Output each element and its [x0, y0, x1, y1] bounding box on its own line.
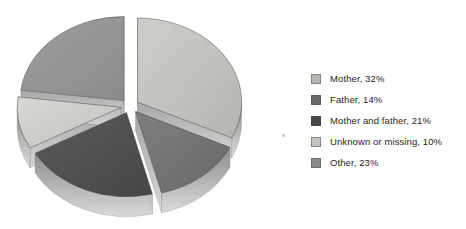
legend-swatch-mother [311, 74, 321, 84]
print-speckle [282, 134, 285, 137]
figure-canvas: Mother, 32% Father, 14% Mother and fathe… [0, 0, 466, 229]
legend-label: Mother and father, 21% [330, 115, 431, 126]
legend-item: Father, 14% [311, 89, 442, 110]
legend-item: Other, 23% [311, 152, 442, 173]
legend-item: Mother and father, 21% [311, 110, 442, 131]
legend-swatch-father [311, 95, 321, 105]
chart-legend: Mother, 32% Father, 14% Mother and fathe… [311, 68, 442, 173]
legend-label: Father, 14% [330, 94, 382, 105]
legend-item: Unknown or missing, 10% [311, 131, 442, 152]
legend-label: Other, 23% [330, 157, 379, 168]
legend-swatch-unknown-or-missing [311, 137, 321, 147]
legend-swatch-mother-and-father [311, 116, 321, 126]
legend-label: Mother, 32% [330, 73, 384, 84]
legend-label: Unknown or missing, 10% [330, 136, 442, 147]
legend-swatch-other [311, 158, 321, 168]
slice-top-face [21, 17, 124, 101]
legend-item: Mother, 32% [311, 68, 442, 89]
